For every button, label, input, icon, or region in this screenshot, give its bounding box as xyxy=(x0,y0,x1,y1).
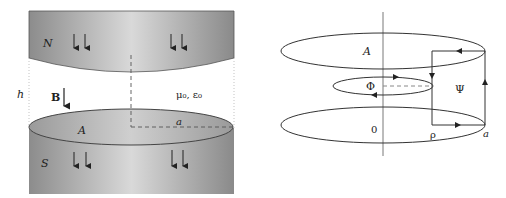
rho-label: ρ xyxy=(430,129,436,140)
radius-label: a xyxy=(176,116,182,127)
medium-label: μ₀, ε₀ xyxy=(176,89,202,100)
psi-label: Ψ xyxy=(455,83,465,96)
gap-height-label: h xyxy=(17,88,24,101)
south-label: S xyxy=(41,157,49,170)
area-label: A xyxy=(77,124,86,137)
right-area-label: A xyxy=(362,45,371,58)
north-label: N xyxy=(42,37,53,50)
diagram-canvas: N S h B μ₀, ε₀ A a A Φ Ψ 0 ρ a xyxy=(0,0,506,198)
left-figure: N S h B μ₀, ε₀ A a xyxy=(17,11,234,194)
right-radius-label: a xyxy=(483,128,489,139)
origin-label: 0 xyxy=(371,124,377,135)
b-field-label: B xyxy=(51,91,60,104)
phi-label: Φ xyxy=(366,80,375,93)
north-magnet xyxy=(29,11,234,72)
